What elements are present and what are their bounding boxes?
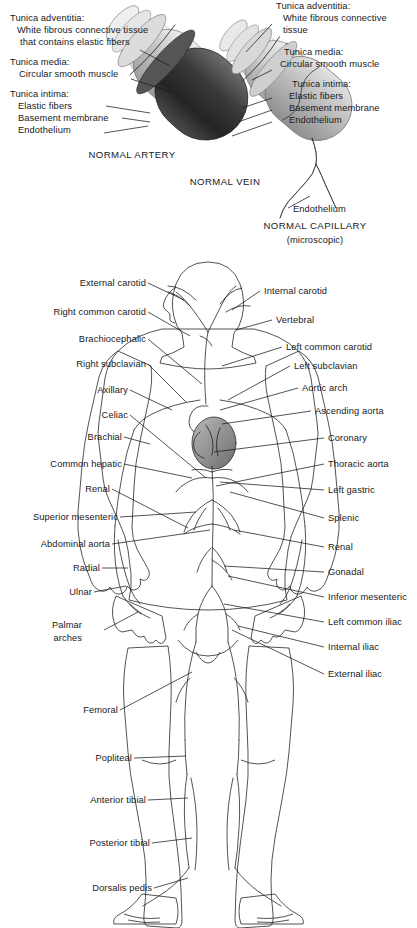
label-brachial: Brachial [88, 432, 122, 443]
label-axillary: Axillary [97, 385, 128, 396]
label-common-hepatic: Common hepatic [50, 459, 122, 470]
arterial-tree [114, 286, 305, 906]
label-right-common-carotid: Right common carotid [54, 307, 146, 318]
label-aortic-arch: Aortic arch [302, 383, 348, 394]
label-ulnar: Ulnar [69, 587, 92, 598]
capillary-endothelium-label: Endothelium [293, 204, 346, 215]
normal-capillary-caption: NORMAL CAPILLARY [263, 221, 366, 232]
artery-elastic-fibers-label: Elastic fibers [18, 101, 72, 112]
normal-vein-caption: NORMAL VEIN [190, 177, 261, 188]
artery-tunica-adventitia-label: Tunica adventitia: [10, 13, 84, 24]
artery-basement-membrane-label: Basement membrane [18, 113, 109, 124]
vein-basement-membrane-label: Basement membrane [289, 103, 380, 114]
vein-tunica-adventitia-line3: tissue [283, 25, 308, 36]
label-femoral: Femoral [83, 705, 118, 716]
vein-elastic-fibers-label: Elastic fibers [289, 91, 343, 102]
label-superior-mesenteric: Superior mesenteric [33, 512, 118, 523]
vein-tunica-adventitia-line2: White fibrous connective [283, 13, 387, 24]
vessel-cross-sections-panel: Tunica adventitia: White fibrous connect… [0, 0, 417, 248]
label-left-common-carotid: Left common carotid [286, 342, 372, 353]
label-dorsalis-pedis: Dorsalis pedis [92, 883, 152, 894]
vein-leader-lines [232, 24, 272, 136]
artery-endothelium-label: Endothelium [18, 125, 71, 136]
label-popliteal: Popliteal [95, 753, 132, 764]
label-external-carotid: External carotid [80, 278, 146, 289]
vein-tunica-intima-label: Tunica intima: [292, 79, 351, 90]
artery-tunica-adventitia-line2: White fibrous connective tissue [17, 25, 148, 36]
label-brachiocephalic: Brachiocephalic [79, 334, 146, 345]
vein-endothelium-label: Endothelium [289, 115, 342, 126]
label-left-gastric: Left gastric [328, 485, 375, 496]
vein-tunica-media-line2: Circular smooth muscle [280, 59, 379, 70]
label-radial: Radial [73, 563, 100, 574]
label-palmar-arches-line2: arches [53, 633, 82, 644]
artery-tunica-media-label: Tunica media: [10, 57, 69, 68]
label-right-subclavian: Right subclavian [76, 359, 146, 370]
label-left-common-iliac: Left common iliac [328, 617, 402, 628]
label-splenic: Splenic [328, 513, 359, 524]
label-coronary: Coronary [328, 433, 367, 444]
vein-tunica-media-label: Tunica media: [284, 47, 343, 58]
capillary-microscopic-sub: (microscopic) [287, 235, 344, 246]
label-external-iliac: External iliac [328, 669, 382, 680]
label-palmar-arches-line1: Palmar [52, 620, 82, 631]
label-posterior-tibial: Posterior tibial [89, 838, 150, 849]
label-renal-right: Renal [328, 542, 353, 553]
artery-tunica-intima-label: Tunica intima: [10, 89, 69, 100]
label-internal-carotid: Internal carotid [264, 286, 327, 297]
label-gonadal: Gonadal [328, 567, 364, 578]
label-ascending-aorta: Ascending aorta [315, 406, 384, 417]
artery-tunica-media-line2: Circular smooth muscle [19, 69, 118, 80]
arterial-system-figure: Tunica adventitia: White fibrous connect… [0, 0, 417, 928]
label-inferior-mesenteric: Inferior mesenteric [328, 592, 407, 603]
normal-artery-caption: NORMAL ARTERY [88, 150, 175, 161]
label-abdominal-aorta: Abdominal aorta [41, 539, 110, 550]
label-anterior-tibial: Anterior tibial [90, 795, 146, 806]
label-celiac: Celiac [102, 410, 128, 421]
label-thoracic-aorta: Thoracic aorta [328, 459, 389, 470]
label-internal-iliac: Internal iliac [328, 642, 379, 653]
artery-tunica-adventitia-line3: that contains elastic fibers [20, 37, 130, 48]
label-vertebral: Vertebral [276, 315, 314, 326]
label-left-subclavian: Left subclavian [294, 361, 358, 372]
vein-tunica-adventitia-label: Tunica adventitia: [276, 1, 350, 12]
artery-leader-lines [104, 50, 172, 133]
label-renal-left: Renal [85, 484, 110, 495]
